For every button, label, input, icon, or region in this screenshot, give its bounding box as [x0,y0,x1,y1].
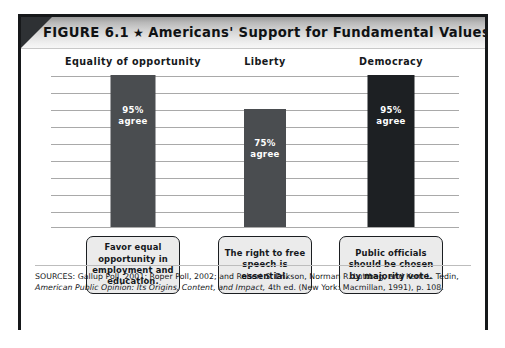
column-header-liberty: Liberty [244,56,286,67]
bar-value-democracy-line2: agree [368,116,415,127]
bar-equality-of-opportunity: 95% agree [111,75,156,227]
sources-divider [35,265,471,266]
column-header-equality: Equality of opportunity [65,56,201,67]
sources-title-italic: American Public Opinion: Its Origins, Co… [35,283,265,292]
figure-headline: Americans' Support for Fundamental Value… [148,25,485,40]
bar-value-liberty-line2: agree [244,149,286,160]
figure-body: Equality of opportunity Liberty Democrac… [21,49,485,330]
bar-liberty: 75% agree [244,109,286,227]
column-header-democracy: Democracy [359,56,423,67]
figure-frame: FIGURE 6.1★Americans' Support for Fundam… [18,14,488,330]
bar-value-equality-line1: 95% [111,105,156,116]
bar-value-democracy-line1: 95% [368,105,415,116]
sources-note: SOURCES: Gallup Poll, 2001; Roper Poll, … [35,271,477,294]
sources-edition-roman: 4th ed. (New York: Macmillan, 1991), p. … [265,283,443,292]
star-icon: ★ [129,26,148,40]
bar-value-liberty-line1: 75% [244,138,286,149]
chart-baseline [51,227,459,228]
bar-value-equality-line2: agree [111,116,156,127]
figure-title: FIGURE 6.1★Americans' Support for Fundam… [43,17,485,48]
sources-line-2: American Public Opinion: Its Origins, Co… [35,282,477,293]
figure-header-band: FIGURE 6.1★Americans' Support for Fundam… [21,17,485,49]
figure-number-label: FIGURE 6.1 [43,25,129,40]
sources-line-1: SOURCES: Gallup Poll, 2001; Roper Poll, … [35,271,477,282]
bar-democracy: 95% agree [368,75,415,227]
